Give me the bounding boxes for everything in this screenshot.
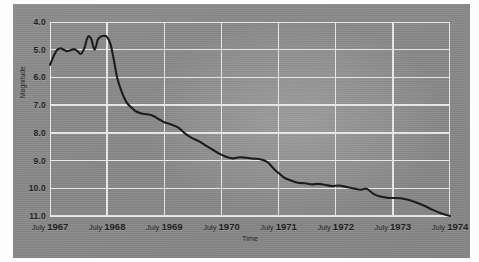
x-axis-tick-label: July 1973 — [375, 221, 412, 232]
y-axis-tick-labels: 4.05.06.07.08.09.010.011.0 — [13, 22, 46, 216]
y-axis-tick-label: 9.0 — [34, 156, 46, 166]
y-axis-tick-label: 8.0 — [34, 128, 46, 138]
y-axis-tick-label: 10.0 — [29, 183, 46, 193]
x-axis-title: Time — [50, 235, 450, 242]
x-axis-tick-labels: July 1967July 1968July 1969July 1970July… — [50, 221, 450, 235]
x-axis-tick-label: July 1970 — [203, 221, 240, 232]
y-axis-tick-label: 4.0 — [34, 17, 46, 27]
chart-panel: 4.05.06.07.08.09.010.011.0 Magnitude Jul… — [13, 4, 470, 258]
x-axis-tick-label: July 1969 — [146, 221, 183, 232]
x-axis-tick-label: July 1968 — [89, 221, 126, 232]
y-axis-tick-label: 11.0 — [29, 211, 46, 221]
x-axis-tick-label: July 1974 — [432, 221, 469, 232]
plot-area — [50, 22, 450, 216]
y-axis-tick-label: 7.0 — [34, 100, 46, 110]
y-axis-title: Magnitude — [19, 66, 26, 98]
y-axis-tick-label: 5.0 — [34, 45, 46, 55]
y-axis-tick-label: 6.0 — [34, 72, 46, 82]
x-axis-tick-label: July 1972 — [317, 221, 354, 232]
x-axis-tick-label: July 1971 — [260, 221, 297, 232]
x-axis-tick-label: July 1967 — [32, 221, 69, 232]
series-line-chart — [50, 22, 450, 216]
figure-frame: 4.05.06.07.08.09.010.011.0 Magnitude Jul… — [0, 0, 479, 262]
series-path-magnitude — [50, 36, 450, 216]
